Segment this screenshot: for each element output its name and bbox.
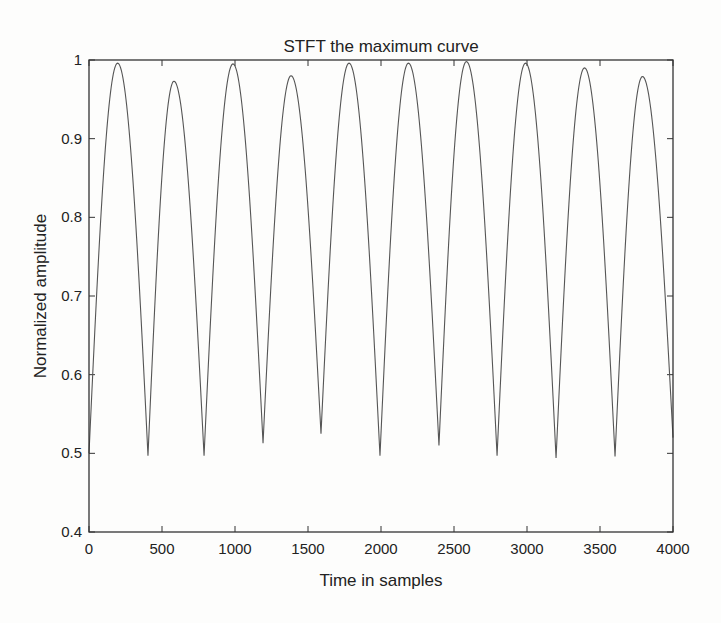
y-tick-label: 0.8 (61, 208, 82, 225)
line-chart: STFT the maximum curve 0.40.50.60.70.80.… (0, 0, 721, 623)
y-tick-label: 0.7 (61, 287, 82, 304)
x-tick-label: 500 (149, 540, 174, 557)
chart-title: STFT the maximum curve (283, 37, 478, 56)
x-tick-label: 2000 (364, 540, 397, 557)
x-tick-label: 2500 (437, 540, 470, 557)
x-tick-label: 4000 (656, 540, 689, 557)
x-tick-label: 0 (85, 540, 93, 557)
y-tick-label: 0.6 (61, 366, 82, 383)
y-tick-label: 1 (74, 51, 82, 68)
y-axis-label: Normalized amplitude (31, 214, 50, 378)
chart-figure: STFT the maximum curve 0.40.50.60.70.80.… (0, 0, 721, 623)
x-tick-label: 3500 (583, 540, 616, 557)
plot-area-frame (89, 60, 673, 532)
x-tick-label: 1500 (291, 540, 324, 557)
x-axis-label: Time in samples (319, 571, 442, 590)
y-tick-label: 0.9 (61, 130, 82, 147)
y-tick-label: 0.4 (61, 523, 82, 540)
y-axis-ticks: 0.40.50.60.70.80.91 (61, 51, 673, 540)
y-tick-label: 0.5 (61, 444, 82, 461)
x-tick-label: 1000 (218, 540, 251, 557)
data-line (89, 62, 673, 458)
x-tick-label: 3000 (510, 540, 543, 557)
